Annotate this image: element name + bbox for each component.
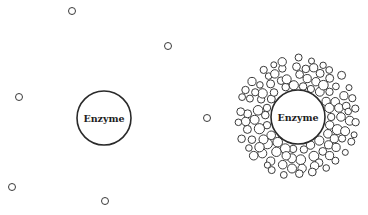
substrate-molecule (16, 94, 23, 101)
substrate-molecule (338, 71, 346, 79)
substrate-molecule (351, 132, 357, 138)
substrate-molecule (320, 62, 326, 68)
substrate-molecule (238, 135, 246, 143)
substrate-molecule (308, 168, 316, 176)
substrate-molecule (335, 104, 344, 113)
substrate-molecule (330, 135, 338, 143)
substrate-molecule (349, 95, 356, 102)
substrate-molecule (278, 58, 286, 66)
substrate-molecule (263, 104, 270, 111)
substrate-molecule (282, 75, 291, 84)
substrate-molecule (248, 136, 256, 144)
substrate-molecule (69, 8, 76, 15)
enzyme-label-left: Enzyme (83, 113, 124, 124)
enzyme-substrate-diagram: Enzyme Enzyme (0, 0, 368, 215)
substrate-molecule (309, 58, 315, 64)
substrate-molecule (246, 95, 253, 102)
substrate-molecule (102, 198, 109, 205)
substrate-molecule (352, 119, 359, 126)
substrate-molecule (252, 89, 259, 96)
substrate-molecule (239, 94, 246, 101)
substrate-molecule (299, 83, 307, 91)
substrate-molecule (337, 113, 346, 122)
substrate-molecule (352, 105, 359, 112)
substrate-molecule (288, 164, 297, 173)
substrate-molecule (9, 184, 16, 191)
substrate-molecule (323, 165, 330, 172)
substrate-molecule (237, 108, 245, 116)
substrate-molecule (270, 89, 278, 97)
substrate-molecule (248, 77, 256, 85)
substrate-molecule (241, 117, 250, 126)
substrate-molecule (332, 143, 340, 151)
substrate-molecule (340, 92, 348, 100)
substrate-molecule (295, 54, 302, 61)
substrate-molecule (246, 145, 253, 152)
substrate-molecule (165, 43, 172, 50)
substrate-molecule (271, 70, 279, 78)
substrate-molecule (255, 143, 264, 152)
substrate-molecule (293, 63, 301, 71)
substrate-molecule (257, 82, 264, 89)
substrate-molecule (260, 66, 267, 73)
substrate-molecule (328, 113, 335, 120)
substrate-molecule (296, 170, 304, 178)
substrate-molecule (296, 155, 306, 165)
substrate-molecule (326, 74, 334, 82)
substrate-molecule (235, 119, 242, 126)
substrate-molecule (258, 89, 267, 98)
substrate-molecule (272, 147, 281, 156)
substrate-molecule (319, 80, 329, 90)
low-substrate-panel: Enzyme (9, 8, 211, 205)
substrate-molecule (271, 62, 277, 68)
substrate-molecule (278, 160, 287, 169)
substrate-molecule (348, 138, 355, 145)
substrate-molecule (316, 69, 324, 77)
high-substrate-panel: Enzyme (235, 54, 359, 178)
substrate-molecule (333, 83, 340, 90)
substrate-molecule (303, 75, 311, 83)
substrate-molecule (249, 151, 258, 160)
substrate-molecule (242, 86, 249, 93)
substrate-molecule (250, 115, 259, 124)
substrate-molecule (339, 135, 346, 142)
enzyme-label-right: Enzyme (277, 112, 318, 123)
substrate-molecule (243, 125, 251, 133)
substrate-molecule (204, 115, 211, 122)
substrate-molecule (346, 85, 352, 91)
substrate-molecule (326, 67, 333, 74)
substrate-molecule (302, 65, 310, 73)
substrate-molecule (282, 152, 290, 160)
substrate-molecule (264, 162, 270, 168)
substrate-molecule (332, 157, 339, 164)
substrate-molecule (341, 127, 350, 136)
substrate-molecule (253, 106, 263, 116)
substrate-molecule (342, 149, 348, 155)
substrate-molecule (280, 172, 287, 179)
substrate-molecule (267, 80, 275, 88)
substrate-molecule (296, 71, 304, 79)
substrate-molecule (345, 108, 352, 115)
substrate-molecule (326, 88, 333, 95)
substrate-molecule (254, 124, 264, 134)
substrate-molecule (300, 146, 307, 153)
